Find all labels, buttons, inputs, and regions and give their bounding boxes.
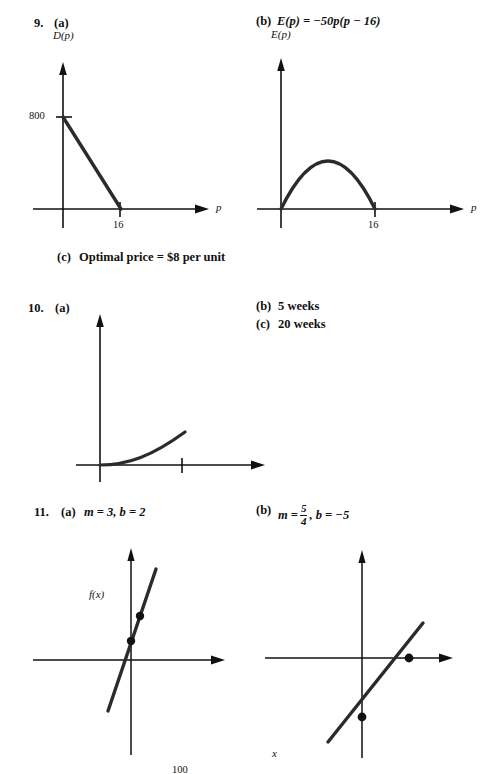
problem-11-part-b-label: (b) — [256, 503, 271, 517]
problem-11-part-a-label: (a) — [61, 505, 76, 519]
problem-11-part-b-suffix: , b = −5 — [309, 508, 349, 522]
y-axis-label: E(p) — [271, 28, 291, 40]
graph-line-m54-b-5: y x (4, 0) (0, −5) — [245, 530, 495, 774]
problem-11-part-b-expression: m =54, b = −5 — [278, 503, 349, 527]
problem-9-part-c-text: Optimal price = $8 per unit — [79, 250, 225, 264]
problem-11-part-a-text: m = 3, b = 2 — [84, 505, 145, 519]
x-axis — [33, 655, 225, 664]
answer-key-page: 9. (a) (b) E(p) = −50p(p − 16) D(p) p 80… — [0, 0, 495, 774]
graph-line-m3-b2: y x (1, 5) (0, 2) — [0, 530, 250, 774]
line-segment-m54 — [328, 623, 423, 742]
parabola-curve — [281, 161, 375, 209]
problem-10-part-c-text: 20 weeks — [278, 317, 326, 331]
point-marker-0-minus5 — [358, 713, 367, 722]
y-axis-label: D(p) — [53, 29, 74, 41]
problem-10-part-b-text: 5 weeks — [278, 299, 319, 313]
x-tick-label-16: 16 — [368, 219, 379, 230]
graph-demand-line: D(p) p 800 16 — [0, 0, 250, 250]
y-axis — [96, 314, 104, 482]
fraction-five-fourths: 54 — [300, 503, 308, 527]
x-axis — [265, 653, 453, 662]
y-axis — [358, 550, 365, 758]
point-marker-0-2 — [127, 637, 135, 645]
y-tick-label-800: 800 — [29, 110, 45, 121]
problem-11-number: 11. — [34, 505, 49, 519]
x-axis — [257, 204, 464, 213]
problem-11-part-b-prefix: m = — [278, 508, 298, 522]
growth-curve-path — [100, 432, 185, 465]
y-axis — [59, 62, 67, 228]
problem-9-part-c-label: (c) — [57, 250, 71, 264]
point-marker-4-0 — [405, 654, 414, 663]
x-axis-label: p — [471, 201, 477, 213]
fraction-denominator: 4 — [300, 516, 308, 527]
graph-revenue-parabola: E(p) p 16 — [245, 0, 495, 250]
point-marker-1-5 — [136, 612, 144, 620]
graph-growth-curve: f(x) x 100 — [0, 290, 280, 490]
x-tick-label-16: 16 — [113, 219, 124, 230]
demand-line-segment — [63, 117, 121, 209]
x-axis-label: p — [216, 201, 222, 213]
fraction-numerator: 5 — [300, 503, 308, 514]
